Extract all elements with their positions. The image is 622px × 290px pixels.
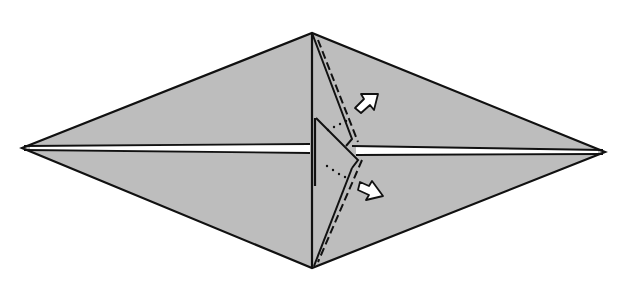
- origami-diagram: [0, 0, 622, 290]
